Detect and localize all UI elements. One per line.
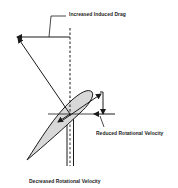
diagram-svg (0, 0, 178, 188)
rotor-shaft (67, 118, 74, 166)
airfoil-force-diagram: Increased Induced Drag Reduced Rotationa… (0, 0, 178, 188)
diagram-caption: Decreased Rotational Velocity (29, 178, 101, 184)
resultant-lift-arrow (18, 38, 70, 114)
reduced-rotational-velocity-label: Reduced Rotational Velocity (96, 130, 163, 136)
induced-drag-leader (49, 16, 66, 37)
induced-drag-label: Increased Induced Drag (69, 11, 126, 17)
airfoil-section (27, 91, 93, 160)
reduced-rotational-leader (100, 116, 104, 127)
